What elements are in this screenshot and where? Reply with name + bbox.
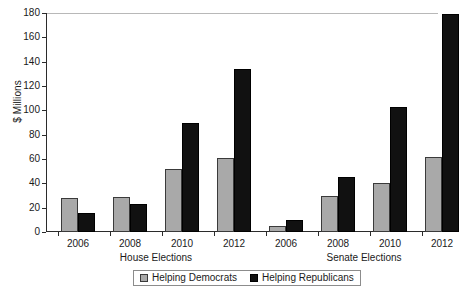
bar-helping-republicans (130, 204, 147, 232)
y-axis-tick-label: 0 (0, 226, 46, 238)
x-axis-tick-mark (214, 232, 215, 236)
bar-helping-democrats (113, 197, 130, 232)
x-axis-tick-mark (370, 232, 371, 236)
y-axis-tick-mark (42, 232, 46, 233)
x-axis-tick-label: 2008 (312, 238, 364, 249)
bar-helping-republicans (182, 123, 199, 233)
x-axis-tick-mark (318, 232, 319, 236)
y-axis-tick-label: 180 (0, 7, 46, 19)
bar-helping-republicans (234, 69, 251, 232)
bar-helping-democrats (425, 157, 442, 232)
x-axis-tick-mark (162, 232, 163, 236)
y-axis-tick-label: 100 (0, 104, 46, 116)
bar-helping-democrats (165, 169, 182, 232)
bar-helping-republicans (286, 220, 303, 232)
legend: Helping Democrats Helping Republicans (133, 270, 361, 286)
y-axis-tick-label: 140 (0, 56, 46, 68)
x-axis-group-label: Senate Elections (284, 252, 444, 263)
x-axis-tick-label: 2012 (208, 238, 260, 249)
x-axis-tick-label: 2006 (52, 238, 104, 249)
legend-item-republicans[interactable]: Helping Republicans (250, 273, 354, 283)
x-axis-tick-mark (58, 232, 59, 236)
bar-helping-republicans (338, 177, 355, 232)
legend-item-democrats[interactable]: Helping Democrats (140, 273, 237, 283)
y-axis-tick-label: 40 (0, 177, 46, 189)
bar-helping-democrats (269, 226, 286, 232)
x-axis-tick-mark (422, 232, 423, 236)
bar-helping-republicans (390, 107, 407, 232)
legend-swatch-democrats-icon (140, 274, 148, 282)
bar-helping-republicans (442, 14, 459, 232)
x-axis-tick-label: 2008 (104, 238, 156, 249)
x-axis-tick-label: 2010 (364, 238, 416, 249)
bars-layer (46, 13, 438, 232)
y-axis-tick-label: 80 (0, 129, 46, 141)
y-axis-tick-label: 160 (0, 31, 46, 43)
x-axis-tick-mark (110, 232, 111, 236)
legend-label-republicans: Helping Republicans (262, 273, 354, 283)
bar-helping-democrats (61, 198, 78, 232)
x-axis-tick-mark (266, 232, 267, 236)
legend-label-democrats: Helping Democrats (152, 273, 237, 283)
bar-helping-republicans (78, 213, 95, 232)
bar-helping-democrats (217, 158, 234, 232)
y-axis-tick-label: 60 (0, 153, 46, 165)
x-axis-group-label: House Elections (76, 252, 236, 263)
x-axis-tick-label: 2006 (260, 238, 312, 249)
x-axis-tick-label: 2012 (416, 238, 463, 249)
x-axis-tick-label: 2010 (156, 238, 208, 249)
legend-swatch-republicans-icon (250, 274, 258, 282)
y-axis-tick-label: 120 (0, 80, 46, 92)
bar-helping-democrats (373, 183, 390, 232)
bar-helping-democrats (321, 196, 338, 233)
y-axis-tick-label: 20 (0, 202, 46, 214)
